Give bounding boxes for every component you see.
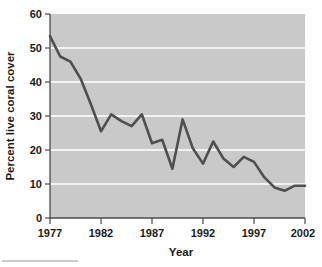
x-tick-label-1977: 1977 bbox=[38, 227, 62, 239]
x-tick-label-1992: 1992 bbox=[191, 227, 215, 239]
y-tick-label-50: 50 bbox=[30, 42, 42, 54]
x-axis-title: Year bbox=[169, 246, 194, 258]
y-tick-label-20: 20 bbox=[30, 144, 42, 156]
x-tick-label-1997: 1997 bbox=[242, 227, 266, 239]
y-tick-label-60: 60 bbox=[30, 8, 42, 20]
x-tick-label-1987: 1987 bbox=[140, 227, 164, 239]
y-axis-title: Percent live coral cover bbox=[4, 51, 16, 181]
x-tick-label-2002: 2002 bbox=[291, 227, 315, 239]
chart-figure: 60 50 40 30 20 10 0 1977 1982 1987 1992 … bbox=[0, 0, 322, 267]
coral-cover-line-chart: 60 50 40 30 20 10 0 1977 1982 1987 1992 … bbox=[0, 0, 322, 267]
x-tick-label-1982: 1982 bbox=[89, 227, 113, 239]
y-tick-label-30: 30 bbox=[30, 110, 42, 122]
y-tick-label-0: 0 bbox=[36, 212, 42, 224]
y-tick-label-40: 40 bbox=[30, 76, 42, 88]
y-tick-label-10: 10 bbox=[30, 178, 42, 190]
